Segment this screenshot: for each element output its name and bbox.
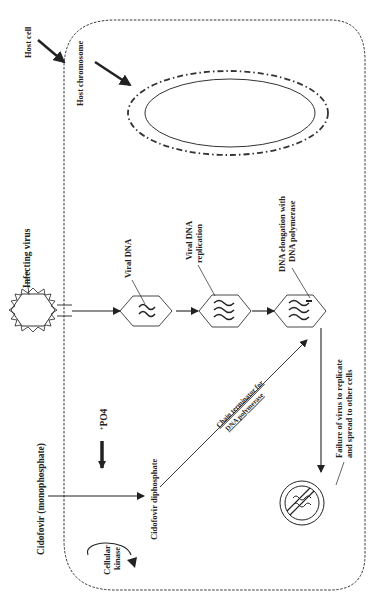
cellular-kinase-label-1: Cellular xyxy=(102,545,112,575)
viral-dna-node xyxy=(120,296,172,326)
failure-label-1: Failure of virus to replicate xyxy=(334,359,344,458)
host-cell-arrow xyxy=(38,40,64,62)
cidofovir-mechanism-diagram: Host cell Host chromosome Infecting viru… xyxy=(0,0,375,600)
dna-elongation-leader xyxy=(292,268,310,298)
viral-dna-replication-leader xyxy=(198,265,215,296)
host-chromosome-label-group: Host chromosome xyxy=(75,41,130,106)
cidofovir-diphosphate-label: Cidofovir diphosphate xyxy=(149,458,159,540)
viral-dna-replication-label-1: Viral DNA xyxy=(184,220,194,260)
failure-leader xyxy=(336,462,344,485)
dna-elongation-label-2: DNA polymerase xyxy=(287,200,297,262)
dna-elongation-node xyxy=(274,295,326,327)
po4-text: PO4 xyxy=(99,408,109,426)
virus-entry-marks xyxy=(57,305,72,316)
failure-prohibition-icon xyxy=(280,481,324,525)
cellular-kinase-label-2: kinase xyxy=(112,547,122,570)
viral-dna-label: Viral DNA xyxy=(123,238,133,278)
chain-terminator-label-group: Chain terminator for DNA polymerase xyxy=(215,379,272,436)
viral-dna-replication-label-2: replication xyxy=(194,224,204,263)
host-cell-label: Host cell xyxy=(23,26,33,58)
infecting-virus-icon xyxy=(9,288,57,332)
host-chromosome-label: Host chromosome xyxy=(75,41,85,106)
host-cell-label-group: Host cell xyxy=(23,26,64,62)
dna-elongation-label-1: DNA elongation with xyxy=(277,196,287,272)
host-chromosome-arrow xyxy=(95,62,130,85)
failure-label-2: and spread to other cells xyxy=(344,369,354,458)
viral-dna-replication-node xyxy=(199,295,251,327)
host-chromosome xyxy=(128,71,328,155)
cidofovir-monophosphate-label: Cidofovir (monophosphate) xyxy=(36,443,47,555)
cellular-kinase-arrowhead xyxy=(127,557,137,568)
po4-label: +PO4 xyxy=(99,408,109,430)
